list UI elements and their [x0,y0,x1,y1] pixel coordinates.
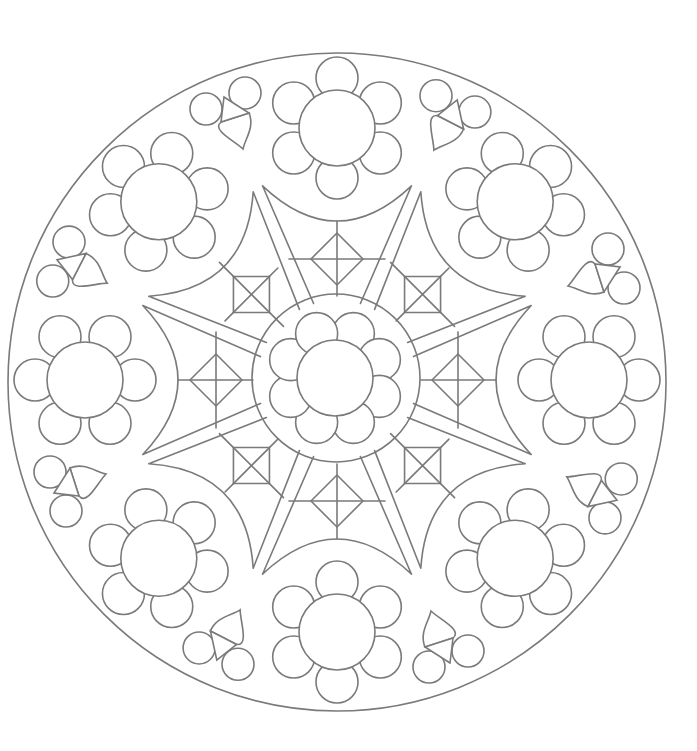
flower-center-disk [477,164,553,240]
cardinal-star-piece [263,457,412,575]
square-x-lines [233,448,269,484]
flower-center-disk [299,594,375,670]
cluster-circle [452,635,484,667]
outer-flower [90,133,229,272]
flower-center-disk [299,90,375,166]
outer-flower [446,489,585,628]
cardinal-star-piece [414,306,532,455]
center-flower-shape [270,313,401,444]
square-x-lines [405,276,441,312]
flower-center-disk [551,342,627,418]
decor-cluster [568,233,640,304]
flower-center-disk [47,342,123,418]
cluster-circle [592,233,624,265]
flower-center-disk [477,520,553,596]
outer-flower [518,316,660,445]
decor-cluster [190,77,261,149]
outer-flower [273,57,402,199]
square-x-lines [405,448,441,484]
mandala-drawing [0,0,697,751]
cardinal-star-piece [263,186,412,304]
outer-flower [273,561,402,703]
cluster-circle [50,495,82,527]
mandala-canvas [0,0,697,751]
decor-cluster [413,611,484,683]
outer-flower [90,489,229,628]
decor-cluster [34,456,106,527]
square-x-lines [233,276,269,312]
flower-center-disk [121,520,197,596]
flower-center-disk [297,340,373,416]
flower-center-disk [121,164,197,240]
cardinal-star-piece [143,306,261,455]
cluster-circle [190,93,222,125]
outer-flower [446,133,585,272]
outer-flower [14,316,156,445]
center-flower [270,313,401,444]
